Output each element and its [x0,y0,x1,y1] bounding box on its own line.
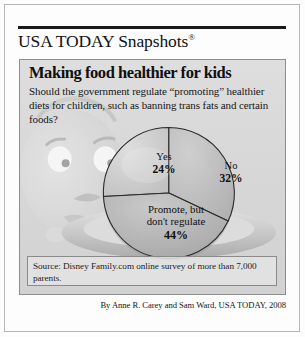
source-text: Source: Disney Family.com online survey … [33,261,271,284]
pie-slice-no [169,127,235,220]
masthead: USA TODAY Snapshots® [18,26,286,52]
pie-chart [103,127,234,261]
byline: By Anne R. Carey and Sam Ward, USA TODAY… [0,300,286,310]
survey-question: Should the government regulate “promotin… [29,85,277,127]
snapshot-infographic: USA TODAY Snapshots® [0,0,305,337]
masthead-brand: USA TODAY Snapshots [18,31,188,51]
source-box: Source: Disney Family.com online survey … [27,256,277,286]
registered-trademark-icon: ® [188,32,195,42]
pie-slice-yes [103,127,169,196]
masthead-title: USA TODAY Snapshots® [18,29,286,52]
page-title: Making food healthier for kids [29,63,279,83]
content-panel: Making food healthier for kids Should th… [19,59,286,295]
pie-slice-promote [103,193,228,259]
plate-illustration [62,207,276,259]
